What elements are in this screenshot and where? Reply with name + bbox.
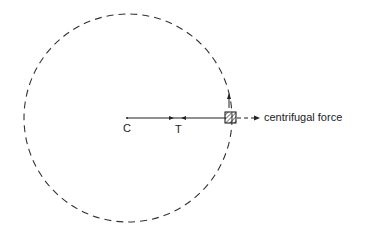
tension-arrow-left-icon (181, 116, 186, 120)
center-point (126, 117, 128, 119)
tension-arrow-right-icon (169, 116, 174, 120)
mass-block (225, 112, 236, 123)
label-tension: T (175, 124, 182, 135)
label-center: C (123, 123, 131, 134)
label-centrifugal-force: centrifugal force (264, 112, 342, 123)
force-arrow-icon (254, 116, 260, 121)
velocity-arrow-icon (227, 93, 231, 99)
